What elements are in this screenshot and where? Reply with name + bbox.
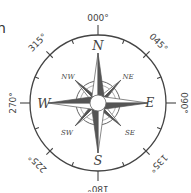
tick bbox=[35, 77, 39, 79]
label-e: E bbox=[145, 96, 155, 110]
label-nw: NW bbox=[60, 73, 75, 81]
tick bbox=[157, 77, 161, 79]
tick bbox=[50, 148, 53, 151]
label-s: S bbox=[94, 153, 103, 168]
label-n: N bbox=[91, 38, 104, 53]
tick bbox=[35, 127, 39, 129]
tick bbox=[146, 151, 150, 155]
tick bbox=[122, 162, 124, 166]
tick bbox=[157, 127, 161, 129]
bearing-label: 180° bbox=[87, 184, 109, 193]
bearing-label: 090° bbox=[179, 92, 189, 114]
tick bbox=[146, 51, 150, 55]
center-hub bbox=[90, 95, 106, 111]
label-se: SE bbox=[125, 129, 135, 137]
tick bbox=[143, 55, 146, 58]
bearing-label: 135° bbox=[147, 152, 169, 174]
bearing-label: 000° bbox=[87, 13, 109, 23]
tick bbox=[72, 162, 74, 166]
label-sw: SW bbox=[61, 129, 74, 137]
tick bbox=[143, 148, 146, 151]
tick bbox=[46, 51, 50, 55]
bearing-label: 045° bbox=[147, 31, 169, 53]
bearing-label: 225° bbox=[26, 152, 48, 174]
label-ne: NE bbox=[121, 73, 133, 81]
tick bbox=[50, 55, 53, 58]
bearing-label: 315° bbox=[26, 31, 48, 53]
compass-rose: 000°045°090°135°180°225°270°315° N E S W… bbox=[0, 0, 191, 192]
tick bbox=[46, 151, 50, 155]
label-w: W bbox=[37, 96, 52, 111]
tick bbox=[72, 40, 74, 44]
bearing-label: 270° bbox=[8, 92, 18, 114]
tick bbox=[122, 40, 124, 44]
